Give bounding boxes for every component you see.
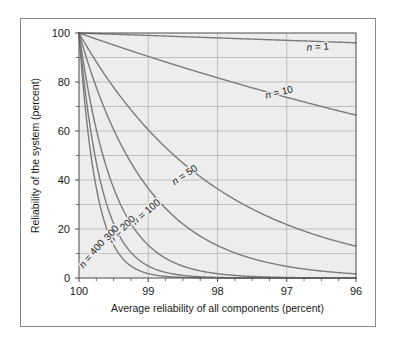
curve-label-0: n = 1 [306, 41, 330, 53]
y-axis-tick-label: 80 [58, 76, 70, 88]
x-axis-title: Average reliability of all components (p… [111, 302, 324, 314]
x-axis-tick-label: 97 [281, 285, 293, 297]
y-axis-tick-label: 20 [58, 223, 70, 235]
y-axis-tick-label: 0 [64, 272, 70, 284]
y-axis-tick-label: 100 [52, 27, 70, 39]
x-axis-tick-label: 96 [350, 285, 362, 297]
y-axis-tick-label: 40 [58, 174, 70, 186]
y-axis-title: Reliability of the system (percent) [29, 78, 41, 233]
x-axis-tick-label: 99 [142, 285, 154, 297]
x-axis-tick-label: 100 [70, 285, 88, 297]
x-axis-tick-label: 98 [211, 285, 223, 297]
reliability-chart: 02040608010010099989796Average reliabili… [21, 19, 375, 326]
figure-root: 02040608010010099989796Average reliabili… [0, 0, 396, 351]
y-axis-tick-label: 60 [58, 125, 70, 137]
figure-frame: 02040608010010099989796Average reliabili… [20, 18, 376, 327]
